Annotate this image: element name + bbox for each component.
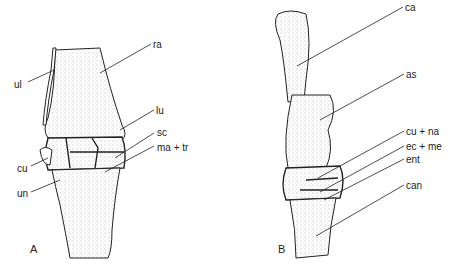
label-unciform: un	[17, 189, 28, 199]
label-cuboid-navicular: cu + na	[406, 127, 439, 137]
panel-a-drawing	[40, 48, 125, 258]
label-astragalus: as	[406, 70, 417, 80]
diagram-drawing	[0, 0, 464, 273]
panel-label-b: B	[278, 244, 285, 255]
label-ulna: ul	[14, 80, 22, 90]
label-calcaneus: ca	[405, 3, 416, 13]
label-entocuneiform: ent	[406, 155, 420, 165]
label-radius: ra	[153, 40, 162, 50]
label-cannon: can	[406, 181, 422, 191]
label-scaphoid: sc	[157, 128, 167, 138]
label-cuneiform: cu	[17, 164, 28, 174]
panel-label-a: A	[30, 244, 37, 255]
label-magnum-trapezoid: ma + tr	[157, 143, 188, 153]
label-ectocuneiform-mesocuneiform: ec + me	[406, 142, 442, 152]
panel-b-drawing	[275, 11, 343, 258]
label-lunate: lu	[156, 106, 164, 116]
